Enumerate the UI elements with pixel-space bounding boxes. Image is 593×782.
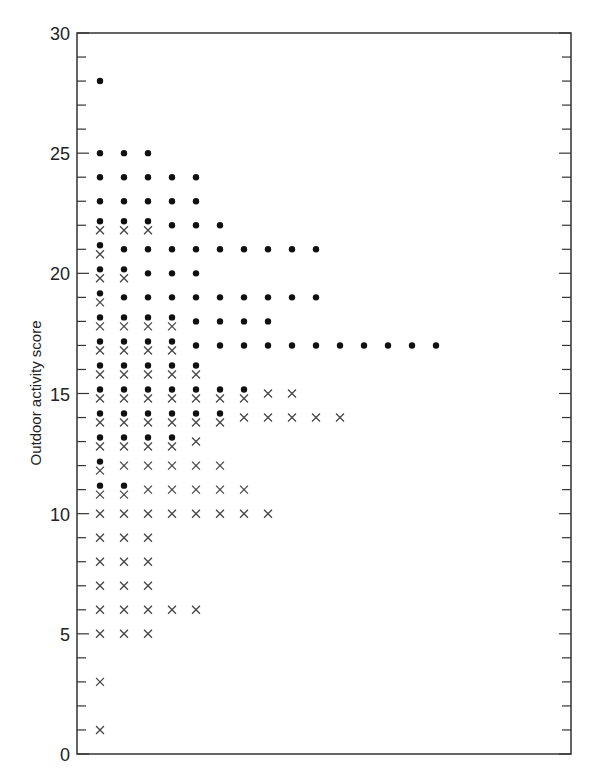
plot-frame	[77, 33, 571, 754]
cross-marker	[240, 510, 248, 518]
dot-marker	[97, 338, 103, 344]
cross-marker	[120, 606, 128, 614]
cross-marker	[96, 510, 104, 518]
dot-marker	[193, 362, 199, 368]
cross-marker	[120, 443, 128, 451]
dot-marker	[121, 218, 127, 224]
dot-marker	[241, 294, 247, 300]
dot-marker	[193, 270, 199, 276]
cross-marker	[96, 419, 104, 427]
dot-marker	[97, 78, 103, 84]
dot-marker	[217, 222, 223, 228]
cross-marker	[120, 534, 128, 542]
y-tick-label: 25	[50, 144, 70, 164]
cross-marker	[96, 395, 104, 403]
cross-marker	[144, 558, 152, 566]
dot-marker	[217, 318, 223, 324]
y-tick-label: 0	[60, 745, 70, 765]
cross-marker	[144, 346, 152, 354]
cross-marker	[216, 395, 224, 403]
cross-marker	[120, 630, 128, 638]
dot-marker	[145, 338, 151, 344]
dot-marker	[169, 362, 175, 368]
cross-marker	[144, 370, 152, 378]
dot-marker	[169, 294, 175, 300]
dot-marker	[241, 342, 247, 348]
y-tick-label: 30	[50, 24, 70, 44]
cross-marker	[96, 298, 104, 306]
dot-marker	[313, 294, 319, 300]
cross-marker	[144, 606, 152, 614]
cross-marker	[120, 558, 128, 566]
y-tick-label: 10	[50, 505, 70, 525]
dot-marker	[193, 198, 199, 204]
dot-marker	[289, 294, 295, 300]
cross-marker	[168, 443, 176, 451]
dot-marker	[289, 246, 295, 252]
cross-marker	[96, 443, 104, 451]
dot-marker	[265, 318, 271, 324]
cross-marker	[96, 370, 104, 378]
dot-marker	[97, 410, 103, 416]
dot-marker	[121, 386, 127, 392]
dot-marker	[97, 242, 103, 248]
cross-series	[96, 226, 344, 734]
cross-marker	[96, 491, 104, 499]
cross-marker	[168, 419, 176, 427]
y-tick-label: 15	[50, 385, 70, 405]
dot-marker	[145, 410, 151, 416]
cross-marker	[144, 395, 152, 403]
cross-marker	[192, 419, 200, 427]
cross-marker	[168, 462, 176, 470]
dot-marker	[169, 222, 175, 228]
cross-marker	[168, 346, 176, 354]
dot-marker	[121, 434, 127, 440]
dot-marker	[145, 434, 151, 440]
dot-marker	[241, 246, 247, 252]
cross-marker	[216, 419, 224, 427]
dot-marker	[313, 342, 319, 348]
cross-marker	[144, 582, 152, 590]
cross-marker	[144, 486, 152, 494]
dot-marker	[145, 246, 151, 252]
dot-marker	[193, 222, 199, 228]
dot-marker	[97, 290, 103, 296]
cross-marker	[120, 274, 128, 282]
cross-marker	[192, 438, 200, 446]
cross-marker	[168, 322, 176, 330]
cross-marker	[168, 370, 176, 378]
dot-marker	[193, 318, 199, 324]
dot-marker	[313, 246, 319, 252]
cross-marker	[96, 678, 104, 686]
dot-marker	[145, 386, 151, 392]
cross-marker	[96, 250, 104, 258]
cross-marker	[120, 395, 128, 403]
cross-marker	[120, 346, 128, 354]
dot-marker	[145, 314, 151, 320]
dot-marker	[145, 198, 151, 204]
dot-marker	[169, 386, 175, 392]
dot-marker	[97, 362, 103, 368]
dot-marker	[217, 342, 223, 348]
dot-marker	[97, 434, 103, 440]
dot-marker	[121, 314, 127, 320]
cross-marker	[120, 370, 128, 378]
dot-marker	[193, 410, 199, 416]
dot-marker	[193, 342, 199, 348]
cross-marker	[240, 414, 248, 422]
cross-marker	[192, 606, 200, 614]
cross-marker	[240, 486, 248, 494]
dot-marker	[265, 246, 271, 252]
dot-marker	[121, 246, 127, 252]
cross-marker	[168, 486, 176, 494]
dot-marker	[169, 434, 175, 440]
dot-marker	[145, 150, 151, 156]
dot-marker	[169, 338, 175, 344]
dot-marker	[97, 482, 103, 488]
dot-marker	[145, 218, 151, 224]
dot-marker	[169, 246, 175, 252]
dot-marker	[97, 198, 103, 204]
cross-marker	[96, 558, 104, 566]
dot-marker	[97, 314, 103, 320]
cross-marker	[96, 606, 104, 614]
